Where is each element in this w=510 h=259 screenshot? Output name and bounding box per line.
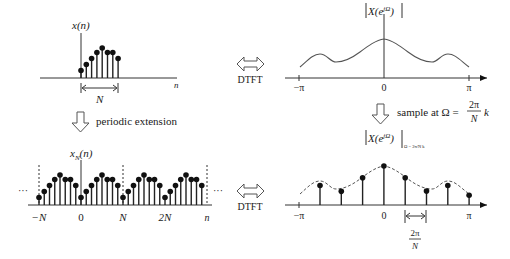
sample-dot (466, 192, 472, 198)
bottom-right-sampled-panel: −π 0 π X(ejΩ) Ω = 2π/N k 2π N (285, 130, 487, 251)
sample-dot (120, 195, 126, 201)
sample-dot (317, 183, 323, 189)
tick-label-zero: 0 (382, 210, 387, 221)
sample-dot (194, 177, 200, 183)
svg-text:X(ejΩ): X(ejΩ) (367, 5, 394, 18)
dtft-label-top: DTFT (238, 74, 263, 85)
double-arrow-icon (237, 57, 264, 71)
sample-dot (104, 177, 110, 183)
tick-label-pi: π (466, 210, 471, 221)
sample-dot (167, 189, 173, 195)
sampled-magnitude-label: X(ejΩ) Ω = 2π/N k (366, 130, 425, 149)
sample-dot (178, 177, 184, 183)
top-left-signal-panel: x(n) n N (40, 19, 179, 105)
sample-dot (89, 183, 95, 189)
sample-dot (360, 175, 366, 181)
sample-at-denominator: N (470, 113, 479, 124)
sample-dot (68, 177, 74, 183)
sample-dot (424, 188, 430, 194)
sample-dot (183, 172, 189, 178)
spacing-numerator: 2π (410, 228, 420, 238)
sample-dot (57, 172, 63, 178)
down-arrow-icon (372, 104, 389, 124)
sample-dot (47, 183, 53, 189)
sample-stems (78, 45, 121, 78)
sample-dot (73, 183, 79, 189)
tick-label-pi: π (466, 82, 471, 93)
sample-dot (83, 189, 89, 195)
span-label-n: N (95, 93, 104, 105)
sample-dot (110, 50, 116, 56)
sample-dot (157, 183, 163, 189)
tick-label-n: N (118, 211, 127, 223)
sample-dot (110, 177, 116, 183)
sample-dot (99, 172, 105, 178)
sample-dot (115, 183, 121, 189)
sample-dot (52, 177, 58, 183)
sample-dot (84, 62, 90, 68)
sample-dot (131, 183, 137, 189)
sampling-arrow: sample at Ω = 2π N k (372, 99, 490, 124)
top-right-spectrum-panel: −π 0 π X(ejΩ) (285, 3, 487, 93)
sample-dot (36, 195, 42, 201)
double-arrow-icon (237, 184, 264, 198)
bottom-left-periodic-panel: xN(n) ··· ··· −N 0 N 2N n (18, 147, 223, 223)
sample-at-numerator: 2π (469, 99, 479, 110)
sample-dot (146, 177, 152, 183)
sample-dot (402, 175, 408, 181)
x-label-n: n (174, 80, 179, 90)
sample-dot (162, 195, 168, 201)
sample-dot (381, 163, 387, 169)
down-arrow-icon (72, 112, 89, 132)
sample-dot (89, 56, 95, 62)
tick-label-zero: 0 (78, 211, 84, 223)
sample-dot (125, 189, 131, 195)
evaluation-subscript: Ω = 2π/N k (404, 144, 425, 149)
spacing-denominator: N (411, 241, 419, 251)
sample-dot (188, 177, 194, 183)
sample-dot (199, 183, 205, 189)
tick-label-minus-pi: −π (294, 82, 305, 93)
dtft-label-bottom: DTFT (238, 201, 263, 212)
sample-dot (105, 50, 111, 56)
periodic-extension-label: periodic extension (96, 115, 177, 127)
sample-dot (78, 195, 84, 201)
sample-dot (445, 183, 451, 189)
tick-label-minus-n: −N (32, 211, 47, 223)
sample-dot (115, 56, 121, 62)
y-label-xn-periodic: xN(n) (69, 147, 93, 162)
sample-dot (62, 177, 68, 183)
sample-dot (41, 189, 47, 195)
periodic-sample-stems (36, 172, 204, 205)
dtft-arrow-bottom: DTFT (237, 184, 264, 212)
ellipsis-right: ··· (213, 185, 223, 196)
ellipsis-left: ··· (18, 185, 28, 196)
sample-dot (173, 183, 179, 189)
svg-text:X(ejΩ): X(ejΩ) (367, 132, 394, 145)
tick-label-2n: 2N (159, 211, 173, 223)
tick-label-minus-pi: −π (294, 210, 305, 221)
sample-at-var: k (484, 106, 490, 118)
x-label-n: n (205, 212, 210, 223)
tick-label-zero: 0 (382, 82, 387, 93)
sample-dot (339, 189, 345, 195)
sample-dot (152, 177, 158, 183)
sample-dot (99, 45, 105, 51)
sample-at-label: sample at Ω = (397, 106, 459, 118)
sample-dot (141, 172, 147, 178)
dtft-dft-diagram: x(n) n N DTFT −π 0 π X(ejΩ) periodic ext… (0, 0, 510, 259)
dtft-arrow-top: DTFT (237, 57, 264, 85)
y-label-xn: x(n) (71, 19, 90, 32)
periodic-extension-arrow: periodic extension (72, 112, 177, 132)
sample-dot (94, 50, 100, 56)
sample-dot (94, 177, 100, 183)
sample-dot (136, 177, 142, 183)
sample-dot (78, 68, 84, 74)
